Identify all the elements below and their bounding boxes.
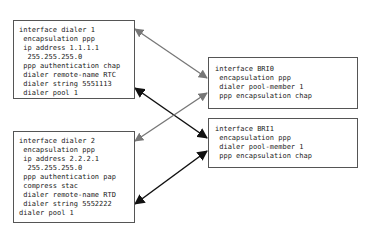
config-line: dialer pool-member 1: [215, 83, 304, 92]
config-line: dialer remote-name RTD: [19, 191, 116, 200]
config-line: ppp encapsulation chap: [215, 92, 312, 101]
bri0-config-box: interface BRI0 encapsulation ppp dialer …: [208, 57, 358, 109]
config-line: interface dialer 1: [19, 26, 95, 35]
dialer2-config-box: interface dialer 2 encapsulation ppp ip …: [13, 131, 135, 223]
config-line: dialer pool 1: [19, 89, 78, 98]
config-line: dialer pool 1: [19, 209, 74, 218]
config-line: 255.255.255.0: [19, 164, 82, 173]
config-line: 255.255.255.0: [19, 53, 82, 62]
config-line: ip address 2.2.2.1: [19, 155, 99, 164]
config-line: encapsulation ppp: [19, 35, 95, 44]
config-line: interface dialer 2: [19, 137, 95, 146]
config-line: ppp encapsulation chap: [215, 152, 312, 161]
config-line: compress stac: [19, 182, 78, 191]
config-line: dialer string 5552222: [19, 200, 112, 209]
bri1-config-box: interface BRI1 encapsulation ppp dialer …: [208, 118, 358, 168]
config-line: interface BRI0: [215, 65, 274, 74]
config-line: ip address 1.1.1.1: [19, 44, 99, 53]
config-line: encapsulation ppp: [215, 134, 291, 143]
config-line: dialer string 5551113: [19, 80, 112, 89]
config-line: interface BRI1: [215, 125, 274, 134]
dialer1-config-box: interface dialer 1 encapsulation ppp ip …: [13, 20, 135, 99]
config-line: encapsulation ppp: [19, 146, 95, 155]
arrow-dialer1-bri0: [135, 29, 207, 78]
arrow-dialer2-bri0: [135, 93, 207, 141]
arrow-dialer2-bri1: [135, 151, 207, 204]
config-line: dialer pool-member 1: [215, 143, 304, 152]
config-line: ppp authentication pap: [19, 173, 116, 182]
arrow-dialer1-bri1: [135, 88, 207, 138]
config-line: encapsulation ppp: [215, 74, 291, 83]
config-line: dialer remote-name RTC: [19, 71, 116, 80]
config-line: ppp authentication chap: [19, 62, 120, 71]
